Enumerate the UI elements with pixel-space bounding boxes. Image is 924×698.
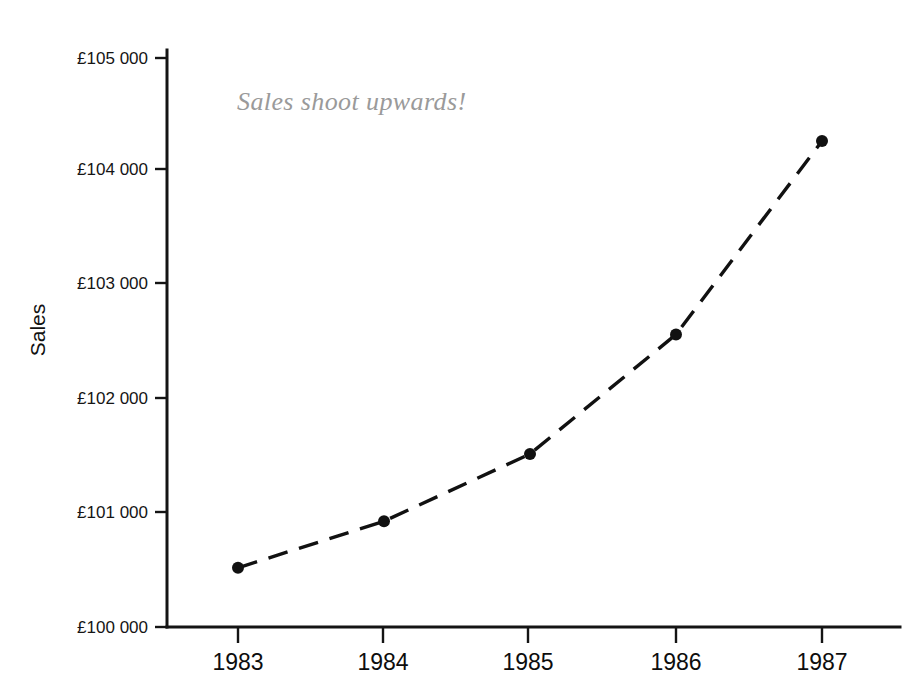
y-tick-label-100000: £100 000 xyxy=(77,618,148,637)
data-point-1985 xyxy=(524,448,536,460)
data-point-1983 xyxy=(232,562,244,574)
x-tick-label-1984: 1984 xyxy=(357,649,408,675)
y-tick-label-104000: £104 000 xyxy=(77,160,148,179)
x-tick-label-1986: 1986 xyxy=(650,649,701,675)
chart-page: line graph £105 000 £104 000 £103 000 £1… xyxy=(0,0,924,698)
y-tick-label-102000: £102 000 xyxy=(77,389,148,408)
y-tick-label-101000: £101 000 xyxy=(77,503,148,522)
data-point-1987 xyxy=(816,135,828,147)
x-tick-label-1983: 1983 xyxy=(212,649,263,675)
sales-line-chart: £105 000 £104 000 £103 000 £102 000 £101… xyxy=(0,0,924,698)
y-tick-label-105000: £105 000 xyxy=(77,49,148,68)
y-tick-label-103000: £103 000 xyxy=(77,274,148,293)
data-point-1986 xyxy=(670,329,682,341)
y-axis-title: Sales xyxy=(26,304,49,357)
x-tick-label-1985: 1985 xyxy=(502,649,553,675)
data-point-1984 xyxy=(378,515,390,527)
x-tick-label-1987: 1987 xyxy=(796,649,847,675)
chart-annotation-text: Sales shoot upwards! xyxy=(237,87,467,116)
